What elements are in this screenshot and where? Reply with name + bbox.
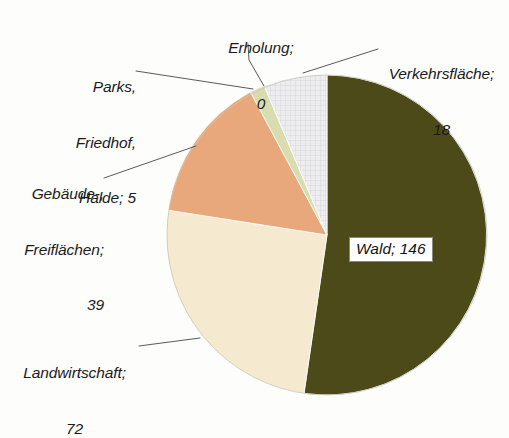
slice-label-wald: Wald; 146 — [349, 237, 433, 262]
slice-label-parks-line1: Parks, — [20, 78, 136, 97]
slice-label-erholung: Erholung; 0 — [196, 2, 326, 150]
slice-label-landwirtschaft: Landwirtschaft; 72 — [10, 327, 139, 438]
slice-label-verkehrsflaeche: Verkehrsfläche; 18 — [374, 28, 509, 176]
slice-label-gebaeude-freiflaechen: Gebäude-, Freiflächen; 39 — [0, 148, 104, 352]
slice-label-verkehrsflaeche-line2: 18 — [374, 121, 509, 140]
slice-label-erholung-line2: 0 — [196, 95, 326, 114]
slice-label-gebaeude-line1: Gebäude-, — [0, 185, 104, 204]
slice-label-erholung-line1: Erholung; — [196, 39, 326, 58]
slice-label-landwirtschaft-line1: Landwirtschaft; — [10, 364, 139, 383]
slice-label-landwirtschaft-line2: 72 — [10, 420, 139, 438]
slice-label-gebaeude-line2: Freiflächen; — [0, 241, 104, 260]
leader-line-landwirtschaft — [139, 338, 200, 346]
slice-label-gebaeude-line3: 39 — [0, 296, 104, 315]
slice-label-verkehrsflaeche-line1: Verkehrsfläche; — [374, 65, 509, 84]
pie-slice-landwirtschaft[interactable] — [166, 210, 327, 393]
